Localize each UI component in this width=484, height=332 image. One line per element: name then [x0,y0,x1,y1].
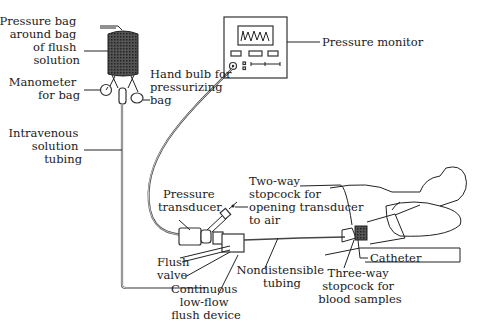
label-three-way-stopcock: Three-way stopcock for blood samples [318,266,401,306]
label-pressure-bag: Pressure bag around bag of flush solutio… [0,14,81,67]
nondistensible-tubing [244,237,345,240]
label-catheter: Catheter [370,251,422,265]
label-two-way-stopcock: Two-way stopcock for opening transducer … [249,174,367,227]
hand-bulb-icon [131,93,143,103]
label-manometer: Manometer for bag [9,75,81,102]
label-pressure-monitor: Pressure monitor [322,35,424,49]
pressure-bag [100,26,138,92]
arterial-line-diagram: Pressure bag around bag of flush solutio… [0,0,484,332]
label-nondistensible-tubing: Nondistensible tubing [236,263,327,290]
patient [325,167,466,262]
label-flush-valve: Flush valve [156,255,193,282]
label-iv-tubing: Intravenous solution tubing [8,126,82,166]
label-flush-device: Continuous low-flow flush device [171,282,241,322]
drip-chamber [119,88,126,104]
label-transducer: Pressure transducer [158,187,222,214]
label-hand-bulb: Hand bulb for pressurizing bag [150,67,235,107]
